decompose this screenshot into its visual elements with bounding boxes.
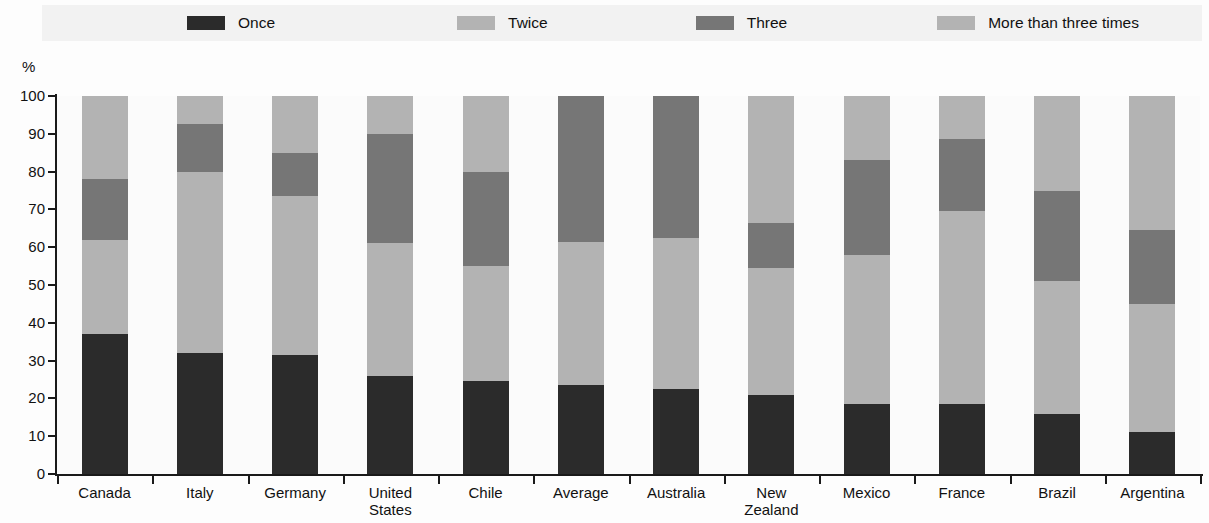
legend-swatch-three (696, 16, 734, 30)
bar-segment[interactable] (272, 196, 318, 355)
y-axis-tick (48, 397, 57, 399)
bar-segment[interactable] (653, 96, 699, 238)
bar-segment[interactable] (748, 223, 794, 268)
bar-segment[interactable] (844, 404, 890, 474)
bar-segment[interactable] (844, 96, 890, 160)
plot-area (57, 96, 1200, 474)
y-axis-tick-label: 10 (5, 428, 45, 443)
x-axis-tick (343, 476, 345, 484)
chart-legend: Once Twice Three More than three times (42, 5, 1202, 41)
bar-segment[interactable] (939, 404, 985, 474)
y-axis-tick (48, 360, 57, 362)
legend-label-three: Three (747, 15, 788, 31)
bar-segment[interactable] (558, 96, 604, 242)
y-axis-tick-label: 40 (5, 315, 45, 330)
bar-segment[interactable] (177, 172, 223, 353)
bar-stack[interactable] (939, 96, 985, 474)
bar-segment[interactable] (653, 389, 699, 474)
x-axis-tick (724, 476, 726, 484)
bar-segment[interactable] (463, 172, 509, 267)
legend-label-more-than-three-times: More than three times (988, 15, 1139, 31)
legend-item-more-than-three-times: More than three times (937, 15, 1139, 31)
bar-segment[interactable] (1034, 96, 1080, 191)
y-axis-tick (48, 246, 57, 248)
legend-item-twice: Twice (457, 15, 548, 31)
bar-segment[interactable] (939, 96, 985, 139)
bar-stack[interactable] (748, 96, 794, 474)
bar-segment[interactable] (463, 266, 509, 381)
bar-segment[interactable] (367, 96, 413, 134)
bar-stack[interactable] (177, 96, 223, 474)
bar-segment[interactable] (939, 139, 985, 211)
bar-segment[interactable] (844, 160, 890, 255)
legend-item-three: Three (696, 15, 788, 31)
legend-swatch-once (187, 16, 225, 30)
x-axis-tick (914, 476, 916, 484)
legend-label-twice: Twice (508, 15, 548, 31)
bar-segment[interactable] (177, 96, 223, 124)
bar-segment[interactable] (844, 255, 890, 404)
bar-segment[interactable] (463, 96, 509, 172)
bar-segment[interactable] (1034, 414, 1080, 474)
y-axis-tick (48, 95, 57, 97)
y-axis-tick (48, 435, 57, 437)
x-axis-tick (1010, 476, 1012, 484)
x-axis-tick (533, 476, 535, 484)
y-axis-tick (48, 322, 57, 324)
x-axis-tick (629, 476, 631, 484)
bar-segment[interactable] (1034, 191, 1080, 282)
bar-segment[interactable] (177, 353, 223, 474)
bar-stack[interactable] (82, 96, 128, 474)
x-axis-tick (248, 476, 250, 484)
bar-segment[interactable] (1129, 230, 1175, 304)
bar-stack[interactable] (463, 96, 509, 474)
y-axis-tick-label: 0 (5, 466, 45, 481)
bar-segment[interactable] (82, 240, 128, 335)
bar-segment[interactable] (558, 385, 604, 474)
bar-segment[interactable] (1034, 281, 1080, 413)
bar-segment[interactable] (367, 376, 413, 474)
bar-segment[interactable] (1129, 96, 1175, 230)
bar-segment[interactable] (653, 238, 699, 389)
bar-segment[interactable] (367, 134, 413, 244)
legend-label-once: Once (238, 15, 275, 31)
stacked-bar-chart: Once Twice Three More than three times %… (0, 0, 1209, 523)
y-axis-tick (48, 133, 57, 135)
x-axis-tick (152, 476, 154, 484)
bar-stack[interactable] (1034, 96, 1080, 474)
y-axis-tick-label: 70 (5, 201, 45, 216)
bar-segment[interactable] (177, 124, 223, 171)
bar-stack[interactable] (844, 96, 890, 474)
bar-segment[interactable] (748, 268, 794, 395)
bar-stack[interactable] (653, 96, 699, 474)
y-axis-tick-label: 50 (5, 277, 45, 292)
x-axis-tick (1105, 476, 1107, 484)
x-axis-tick (819, 476, 821, 484)
y-axis-tick-label: 60 (5, 239, 45, 254)
bar-segment[interactable] (272, 153, 318, 196)
bar-segment[interactable] (82, 96, 128, 179)
bar-segment[interactable] (558, 242, 604, 386)
bar-segment[interactable] (1129, 304, 1175, 433)
bar-segment[interactable] (939, 211, 985, 404)
bar-stack[interactable] (272, 96, 318, 474)
bar-segment[interactable] (82, 334, 128, 474)
y-axis-tick (48, 284, 57, 286)
bar-segment[interactable] (748, 395, 794, 474)
bar-segment[interactable] (463, 381, 509, 474)
bar-segment[interactable] (748, 96, 794, 223)
x-axis-tick (438, 476, 440, 484)
bar-segment[interactable] (82, 179, 128, 239)
bar-segment[interactable] (272, 355, 318, 474)
bar-stack[interactable] (1129, 96, 1175, 474)
legend-item-once: Once (187, 15, 275, 31)
bar-segment[interactable] (272, 96, 318, 153)
y-axis-tick-label: 20 (5, 390, 45, 405)
bar-stack[interactable] (558, 96, 604, 474)
bar-segment[interactable] (367, 243, 413, 375)
x-axis-category-label: Argentina (1092, 484, 1209, 501)
bar-segment[interactable] (1129, 432, 1175, 474)
y-axis-tick-label: 100 (5, 88, 45, 103)
x-axis-tick (57, 476, 59, 484)
bar-stack[interactable] (367, 96, 413, 474)
